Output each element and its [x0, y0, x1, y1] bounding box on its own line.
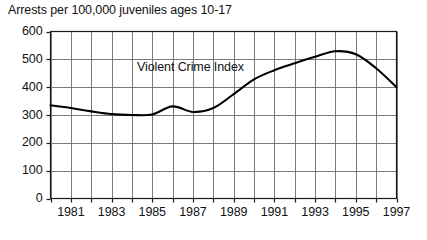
grid-lines	[51, 32, 398, 199]
x-axis-tick-label: 1987	[173, 206, 213, 219]
series-annotation-label: Violent Crime Index	[137, 61, 244, 74]
y-axis-tick-label: 200	[3, 136, 43, 149]
x-axis-tick-label: 1993	[295, 206, 335, 219]
tick-marks	[47, 33, 398, 203]
chart-figure: Arrests per 100,000 juveniles ages 10-17…	[0, 0, 427, 240]
y-axis-tick-label: 100	[3, 164, 43, 177]
y-axis-tick-label: 400	[3, 81, 43, 94]
x-axis-tick-label: 1985	[132, 206, 172, 219]
x-axis-tick-label: 1983	[92, 206, 132, 219]
x-axis-tick-label: 1989	[214, 206, 254, 219]
x-axis-tick-label: 1995	[336, 206, 376, 219]
y-axis-tick-label: 600	[3, 25, 43, 38]
y-axis-tick-label: 0	[3, 192, 43, 205]
x-axis-tick-label: 1997	[377, 206, 417, 219]
x-axis-tick-label: 1991	[254, 206, 294, 219]
y-axis-tick-label: 500	[3, 53, 43, 66]
x-axis-tick-label: 1981	[51, 206, 91, 219]
line-chart-svg	[0, 0, 427, 240]
y-axis-tick-label: 300	[3, 109, 43, 122]
plot-area: 0100200300400500600198119831985198719891…	[0, 0, 427, 240]
